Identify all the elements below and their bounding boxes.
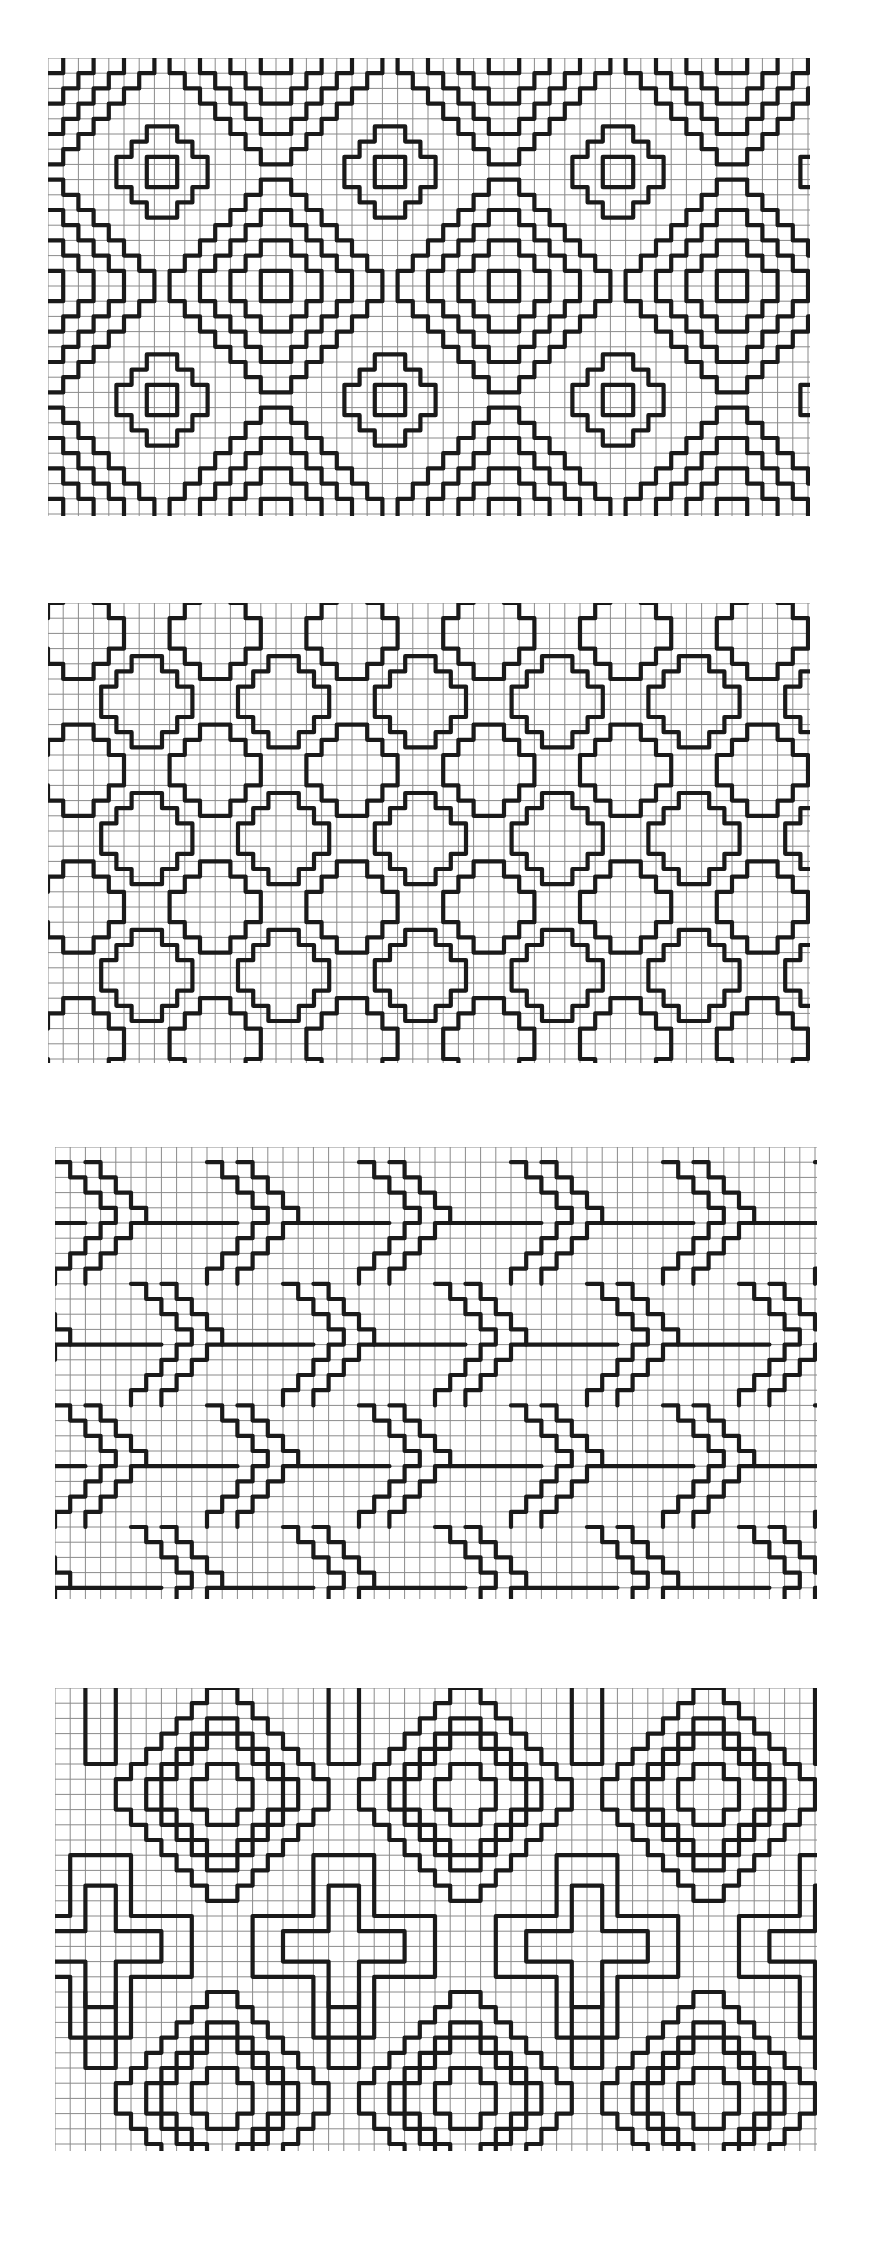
ink-motifs [48, 58, 810, 516]
grid-lines [55, 1147, 817, 1599]
pattern-panel-1 [48, 58, 810, 516]
pattern-panel-4 [55, 1688, 817, 2151]
stepped-cross-pattern [48, 603, 810, 1063]
ink-motifs [55, 1162, 817, 1599]
chevron-arrow-pattern [55, 1147, 817, 1599]
ink-motifs [48, 603, 810, 1063]
pattern-panel-3 [55, 1147, 817, 1599]
diamond-and-cross-pattern [55, 1688, 817, 2151]
diamond-lattice-pattern [48, 58, 810, 516]
pattern-panel-2 [48, 603, 810, 1063]
ink-motifs [55, 1688, 817, 2151]
